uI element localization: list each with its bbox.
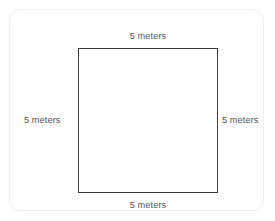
side-label-bottom: 5 meters [78,199,218,211]
side-label-right: 5 meters [222,114,275,126]
figure-card: 5 meters 5 meters 5 meters 5 meters [9,9,264,211]
side-label-left: 5 meters [24,114,74,126]
square-shape [78,48,218,193]
figure-canvas: 5 meters 5 meters 5 meters 5 meters [0,0,275,221]
side-label-top: 5 meters [78,30,218,42]
